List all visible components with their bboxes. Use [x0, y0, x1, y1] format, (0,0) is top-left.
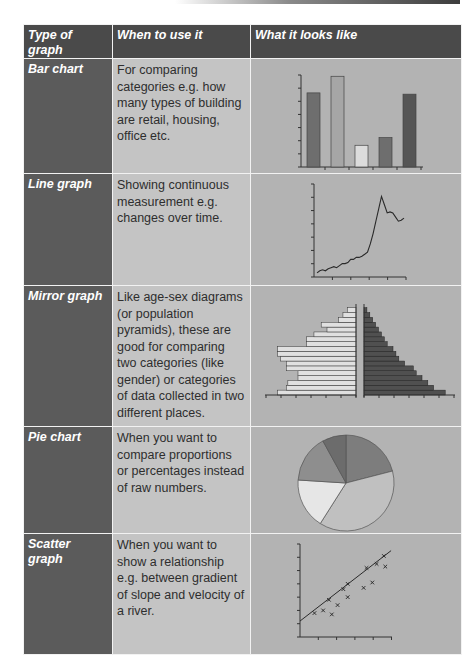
mirror-graph-graphic — [255, 289, 466, 426]
table-row: Bar chart For comparing categories e.g. … — [24, 59, 462, 174]
header-type-of-graph: Type of graph — [24, 25, 113, 59]
table-row: Scatter graph When you want to show a re… — [24, 534, 462, 655]
header-when-to-use: When to use it — [113, 25, 251, 59]
when-to-use-cell: Like age-sex diagrams (or population pyr… — [113, 286, 251, 427]
graph-type-cell: Scatter graph — [24, 534, 113, 655]
graph-types-table: Type of graph When to use it What it loo… — [23, 24, 462, 655]
when-to-use-cell: For comparing categories e.g. how many t… — [113, 59, 251, 174]
page-top-bar — [175, 0, 460, 4]
table-row: Pie chart When you want to compare propo… — [24, 427, 462, 534]
when-to-use-cell: When you want to compare proportions or … — [113, 427, 251, 534]
table-row: Line graph Showing continuous measuremen… — [24, 174, 462, 286]
pie-chart-graphic — [255, 430, 466, 533]
graph-type-cell: Bar chart — [24, 59, 113, 174]
when-to-use-cell: When you want to show a relationship e.g… — [113, 534, 251, 655]
scatter-graph-graphic — [255, 537, 466, 654]
scatter-graph-illustration — [251, 534, 462, 655]
line-graph-illustration — [251, 174, 462, 286]
mirror-graph-illustration — [251, 286, 462, 427]
header-what-it-looks-like: What it looks like — [251, 25, 462, 59]
line-graph-graphic — [255, 177, 466, 285]
graph-type-cell: Line graph — [24, 174, 113, 286]
bar-chart-illustration — [251, 59, 462, 174]
graph-type-cell: Pie chart — [24, 427, 113, 534]
bar-chart-graphic — [255, 62, 466, 173]
table-row: Mirror graph Like age-sex diagrams (or p… — [24, 286, 462, 427]
graph-type-cell: Mirror graph — [24, 286, 113, 427]
table-header-row: Type of graph When to use it What it loo… — [24, 25, 462, 59]
pie-chart-illustration — [251, 427, 462, 534]
when-to-use-cell: Showing continuous measurement e.g. chan… — [113, 174, 251, 286]
